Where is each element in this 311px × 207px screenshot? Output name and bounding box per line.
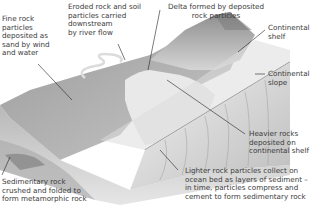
- label-delta: Delta formed by deposited rock particles: [168, 3, 264, 20]
- label-eroded-rock: Eroded rock and soil particles carried d…: [68, 3, 141, 37]
- label-continental-slope: Continental slope: [268, 70, 310, 87]
- label-lighter-rock: Lighter rock particles collect on ocean …: [185, 167, 308, 201]
- label-heavier-rocks: Heavier rocks deposited on continental s…: [249, 130, 309, 156]
- label-continental-shelf: Continental shelf: [268, 24, 310, 41]
- label-sedimentary-rock: Sedimentary rock crushed and folded to f…: [2, 178, 87, 204]
- label-fine-rock-particles: Fine rock particles deposited as sand by…: [2, 15, 50, 58]
